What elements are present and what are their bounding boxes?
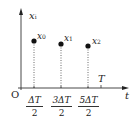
point-label-x0: x0 bbox=[37, 32, 46, 41]
period-label: T bbox=[98, 74, 105, 84]
tick-label-x1: 3ΔT 2 bbox=[51, 96, 72, 118]
y-axis-label-sub: i bbox=[35, 13, 37, 20]
y-axis-arrow-icon bbox=[19, 8, 23, 15]
tick-label-x2: 5ΔT 2 bbox=[78, 96, 99, 118]
point-label-sub: 2 bbox=[97, 38, 101, 45]
point-x2 bbox=[85, 43, 90, 48]
origin-label: O bbox=[11, 89, 19, 100]
tick-label-x0: ΔT 2 bbox=[26, 96, 43, 118]
point-label-sub: 1 bbox=[69, 35, 73, 42]
tick-label-denominator: 2 bbox=[78, 107, 99, 118]
point-label-x2: x2 bbox=[92, 37, 101, 46]
tick-label-denominator: 2 bbox=[26, 107, 43, 118]
point-x1 bbox=[58, 41, 63, 46]
tick-label-denominator: 2 bbox=[51, 107, 72, 118]
y-axis-label: xi bbox=[29, 11, 37, 21]
tick-label-numerator: 3ΔT bbox=[51, 96, 72, 107]
point-label-x1: x1 bbox=[64, 34, 73, 43]
tick-label-numerator: ΔT bbox=[26, 96, 43, 107]
x-axis-label: t bbox=[125, 91, 129, 101]
tick-label-numerator: 5ΔT bbox=[78, 96, 99, 107]
point-x0 bbox=[31, 38, 36, 43]
point-label-sub: 0 bbox=[42, 33, 46, 40]
